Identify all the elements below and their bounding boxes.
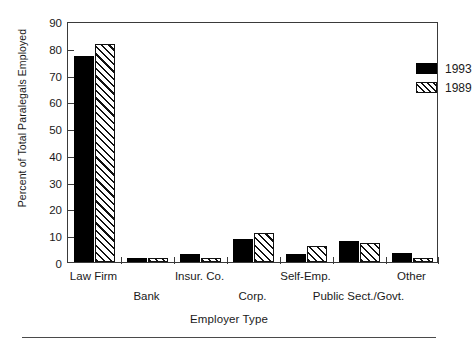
x-tick-mark [174, 257, 175, 264]
x-tick-label: Law Firm [70, 270, 117, 282]
x-tick-mark [386, 257, 387, 264]
bar-1993 [74, 56, 94, 262]
bar-1989 [254, 233, 274, 262]
y-tick-label: 90 [38, 17, 62, 29]
bar-group [280, 23, 333, 262]
bar-1993 [286, 254, 306, 262]
bar-group [68, 23, 121, 262]
bar-group [174, 23, 227, 262]
y-tick-label: 30 [38, 178, 62, 190]
y-tick-label: 40 [38, 151, 62, 163]
x-tick-label: Public Sect./Govt. [313, 290, 404, 302]
bar-1993 [339, 241, 359, 262]
chart-legend: 19931989 [416, 59, 472, 97]
x-tick-label: Corp. [238, 290, 266, 302]
bar-1989 [307, 246, 327, 262]
y-tick-label: 50 [38, 124, 62, 136]
y-tick-label: 60 [38, 97, 62, 109]
bottom-divider [22, 337, 436, 338]
plot-area: 0102030405060708090 19931989 [67, 22, 438, 263]
bar-1993 [233, 239, 253, 262]
legend-swatch-1993 [416, 63, 437, 74]
bar-1989 [413, 258, 433, 262]
y-tick-label: 10 [38, 231, 62, 243]
legend-label: 1989 [445, 81, 472, 95]
x-tick-label: Insur. Co. [175, 270, 224, 282]
bar-group [333, 23, 386, 262]
legend-swatch-1989 [416, 82, 437, 93]
legend-item: 1993 [416, 59, 472, 78]
bar-1989 [95, 44, 115, 262]
y-tick-label: 80 [38, 44, 62, 56]
y-tick-label: 70 [38, 71, 62, 83]
bar-1993 [392, 253, 412, 262]
x-tick-label: Self-Emp. [280, 270, 331, 282]
x-axis-title: Employer Type [0, 313, 458, 325]
bar-1989 [360, 243, 380, 262]
bar-group [121, 23, 174, 262]
y-tick-label: 0 [38, 258, 62, 270]
x-tick-mark [227, 257, 228, 264]
x-tick-mark [121, 257, 122, 264]
bar-1989 [201, 258, 221, 262]
y-tick-label: 20 [38, 204, 62, 216]
y-axis-title: Percent of Total Paralegals Employed [16, 0, 28, 243]
x-tick-label: Other [397, 270, 426, 282]
bar-1993 [180, 254, 200, 262]
legend-item: 1989 [416, 78, 472, 97]
x-tick-mark [333, 257, 334, 264]
bars-layer [68, 23, 437, 262]
x-tick-mark [280, 257, 281, 264]
legend-label: 1993 [445, 62, 472, 76]
bar-1993 [127, 258, 147, 262]
bar-group [227, 23, 280, 262]
x-tick-label: Bank [133, 290, 159, 302]
x-tick-mark [438, 257, 439, 264]
bar-1989 [148, 258, 168, 262]
